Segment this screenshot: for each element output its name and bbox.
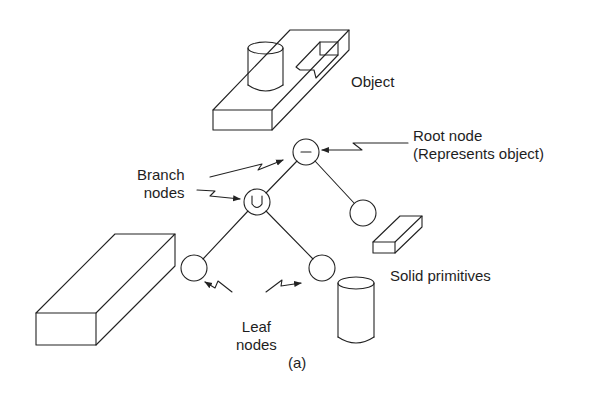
figure-caption: (a) [288, 354, 306, 372]
branch-nodes-label-line1: Branch [137, 166, 185, 184]
tree-edges [203, 161, 354, 259]
right-leaf-node [350, 200, 376, 226]
left-leaf-node-a [181, 255, 207, 281]
branch-nodes-label-line2: nodes [137, 184, 185, 202]
union-node [244, 189, 270, 215]
leaf-nodes-label-line1: Leaf [236, 318, 277, 336]
root-node-label-line2: (Represents object) [413, 145, 544, 163]
root-node-label-line1: Root node [413, 127, 544, 145]
csg-diagram [0, 0, 606, 405]
solid-primitives-label: Solid primitives [390, 267, 491, 285]
branch-arrow-to-union [197, 190, 240, 199]
left-leaf-node-b [309, 255, 335, 281]
object-label: Object [351, 73, 394, 91]
branch-arrow-to-root [210, 160, 283, 177]
object-solid [213, 30, 349, 130]
leaf-nodes-label: Leaf nodes [236, 318, 277, 354]
long-box-primitive [36, 234, 175, 345]
leaf-arrow-right [266, 280, 301, 292]
root-node [293, 139, 319, 165]
small-box-primitive [373, 216, 422, 253]
branch-nodes-label: Branch nodes [137, 166, 185, 202]
root-node-label: Root node (Represents object) [413, 127, 544, 163]
cylinder-primitive [338, 277, 374, 343]
leaf-arrow-left [205, 281, 232, 292]
root-arrow [322, 143, 408, 150]
leaf-nodes-label-line2: nodes [236, 336, 277, 354]
